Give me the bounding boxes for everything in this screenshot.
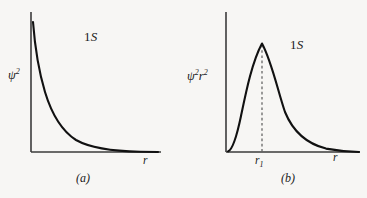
panel-a-ylabel-base: ψ — [8, 68, 16, 82]
figure-container: ψ2 1S r (a) ψ2r2 1S r1 r (b) — [0, 0, 367, 198]
panel-b-curve — [228, 44, 359, 153]
panel-b-caption: (b) — [281, 172, 295, 184]
panel-b-ylabel-base: ψ — [187, 69, 195, 83]
panel-a: ψ2 1S r (a) — [0, 0, 183, 198]
panel-a-orbital-letter: S — [91, 29, 98, 44]
panel-b-r1-tick-sub: 1 — [259, 160, 263, 169]
panel-b-x-axis-label: r — [333, 152, 337, 164]
panel-a-x-axis-label: r — [143, 155, 147, 167]
panel-b-y-axis-label: ψ2r2 — [187, 69, 208, 83]
panel-b-ylabel-suffix-exponent: 2 — [204, 68, 208, 77]
panel-a-caption: (a) — [76, 172, 90, 184]
panel-a-y-axis-label: ψ2 — [8, 68, 20, 82]
panel-a-orbital-label: 1S — [84, 30, 98, 43]
panel-b-plot — [184, 0, 367, 198]
panel-b-orbital-letter: S — [297, 37, 304, 52]
panel-a-ylabel-exponent: 2 — [16, 67, 20, 76]
panel-b-orbital-label: 1S — [290, 38, 304, 51]
panel-b-orbital-digit: 1 — [290, 37, 297, 52]
panel-b: ψ2r2 1S r1 r (b) — [184, 0, 367, 198]
panel-a-orbital-digit: 1 — [84, 29, 91, 44]
panel-b-r1-tick-label: r1 — [255, 155, 263, 169]
